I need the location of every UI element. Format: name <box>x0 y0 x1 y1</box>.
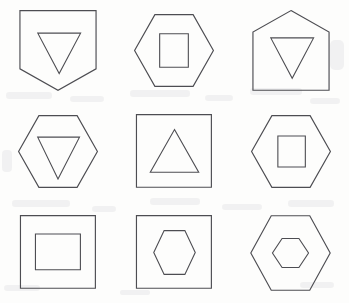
hexagon-outer-shape <box>19 116 98 188</box>
shape-grid <box>0 0 349 303</box>
triangle-down-inner-shape <box>38 33 81 73</box>
triangle-down-inner-shape <box>38 137 80 179</box>
hexagon-outer-shape <box>251 215 330 290</box>
square-outer-shape <box>136 115 211 188</box>
matrix-cell-r3c1 <box>0 202 116 303</box>
matrix-cell-r1c1 <box>0 0 116 101</box>
matrix-cell-r3c3 <box>233 202 349 303</box>
matrix-cell-r3c2 <box>116 202 232 303</box>
pentagon-up-outer-shape <box>253 10 329 90</box>
matrix-cell-r2c3 <box>233 101 349 202</box>
square-inner-shape <box>160 34 189 67</box>
matrix-cell-r2c1 <box>0 101 116 202</box>
hexagon-outer-shape <box>135 15 214 87</box>
square-outer-shape <box>20 216 95 289</box>
square-inner-shape <box>278 136 305 167</box>
triangle-up-inner-shape <box>150 130 198 173</box>
pentagon-down-outer-shape <box>20 10 96 90</box>
rectangle-inner-shape <box>35 234 80 270</box>
square-outer-shape <box>136 216 211 289</box>
shape-matrix-figure <box>0 0 349 303</box>
triangle-down-inner-shape <box>271 37 314 77</box>
hexagon-inner-shape <box>273 238 309 267</box>
matrix-cell-r1c2 <box>116 0 232 101</box>
hexagon-outer-shape <box>251 116 330 188</box>
matrix-cell-r2c2 <box>116 101 232 202</box>
hexagon-inner-shape <box>154 231 196 275</box>
matrix-cell-r1c3 <box>233 0 349 101</box>
